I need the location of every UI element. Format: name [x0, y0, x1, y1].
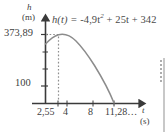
equation-annotation: h(t) = -4,9t2 + 25t + 342	[52, 13, 157, 25]
y-tick-label-100: 100	[15, 78, 31, 89]
x-tick-label-1128: 11,28…	[105, 107, 137, 117]
y-tick-label-max: 373,89	[4, 28, 33, 39]
x-tick-label-4: 4	[63, 107, 68, 117]
parabola-curve	[46, 34, 115, 103]
x-tick-label-255: 2,55	[37, 107, 55, 117]
x-axis-symbol: t	[142, 106, 145, 115]
parabola-figure: h(t) = -4,9t2 + 25t + 342 h (m) t (s) 37…	[0, 0, 165, 132]
y-axis-symbol: h	[27, 3, 32, 12]
y-axis-unit: (m)	[22, 13, 35, 22]
x-axis-unit: (s)	[140, 117, 150, 126]
right-edge-artifact	[163, 58, 165, 132]
right-edge-dotted-artifact	[160, 60, 162, 82]
x-tick-label-8: 8	[88, 107, 93, 117]
